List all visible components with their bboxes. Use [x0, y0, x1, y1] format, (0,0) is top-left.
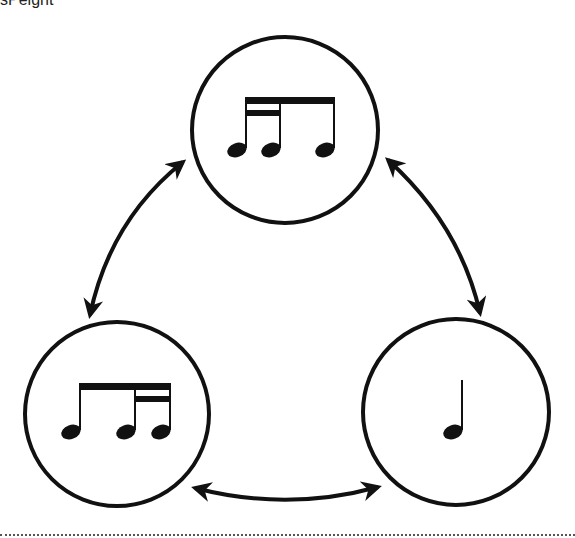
circle-bottom-right [363, 319, 549, 505]
eighth-sixteenth-sixteenth-icon [59, 383, 173, 442]
rhythm-cycle-diagram [0, 0, 575, 538]
circle-top [192, 37, 378, 223]
arrow-bottom-left-bottom-right-icon [195, 487, 378, 500]
dotted-divider [0, 534, 575, 536]
arrow-top-bottom-right-icon [388, 160, 480, 313]
quarter-note-icon [441, 380, 465, 442]
node-bottom-left [25, 322, 209, 506]
node-bottom-right [363, 319, 549, 505]
circle-bottom-left [25, 322, 209, 506]
node-top [192, 37, 378, 223]
sixteenth-sixteenth-eighth-icon [225, 97, 337, 160]
arrow-top-bottom-left-icon [90, 162, 183, 315]
